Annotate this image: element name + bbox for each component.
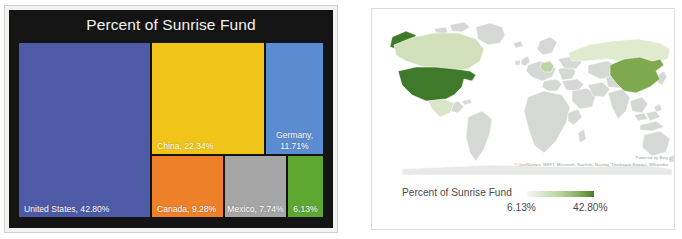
map-panel[interactable]: Powered by Bing © GeoNames, MSFT, Micros… [371,8,675,230]
treemap-tile-germany[interactable]: Germany, 11.71% [265,42,324,155]
treemap-tile-label: Germany, 11.71% [266,130,323,151]
map-legend-max-label: 42.80% [573,202,608,213]
treemap-tile-china[interactable]: China, 22.34% [151,42,265,155]
treemap-tile-united-states[interactable]: United States, 42.80% [18,42,151,218]
map-attribution: © GeoNames, MSFT, Microsoft, NavInfo, Na… [514,162,668,167]
map-legend: Percent of Sunrise Fund 6.13% 42.80% [372,185,674,227]
treemap-tile-label: Canada, 9.28% [157,204,220,215]
map-bing-credit: Powered by Bing [636,155,668,160]
treemap-title: Percent of Sunrise Fund [9,16,333,34]
treemap-tile-mexico[interactable]: Mexico, 7.74% [224,155,287,218]
world-map[interactable] [372,9,674,175]
treemap-tile-russia[interactable]: 6.13% [287,155,324,218]
map-legend-min-label: 6.13% [507,202,536,213]
treemap-chart: Percent of Sunrise Fund United States, 4… [9,10,333,228]
world-map-svg [372,9,674,175]
treemap-tile-label: China, 22.34% [157,141,261,152]
treemap-tile-label: United States, 42.80% [24,204,147,215]
map-legend-gradient-bar [527,191,594,197]
treemap-panel: Percent of Sunrise Fund United States, 4… [4,5,338,233]
treemap-tile-label: 6.13% [287,204,324,215]
map-legend-title: Percent of Sunrise Fund [402,187,512,198]
screenshot-root: Percent of Sunrise Fund United States, 4… [0,0,682,239]
treemap-tile-label: Mexico, 7.74% [225,204,286,215]
treemap-plot-area: United States, 42.80% China, 22.34% Germ… [18,42,324,218]
treemap-tile-canada[interactable]: Canada, 9.28% [151,155,224,218]
